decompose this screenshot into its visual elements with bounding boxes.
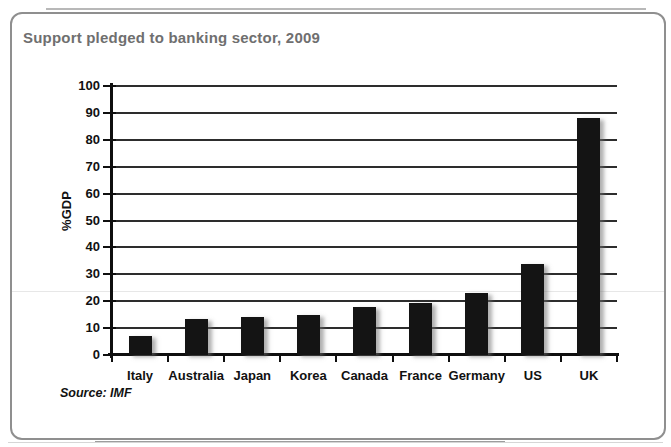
- y-tick-10: [103, 327, 116, 329]
- x-cat-label-germany: Germany: [449, 367, 505, 383]
- x-tick-2: [223, 356, 225, 362]
- bar-germany: [465, 293, 488, 355]
- y-tick-label-10: 10: [62, 319, 100, 337]
- bar-us: [521, 264, 544, 355]
- x-cat-label-australia: Australia: [168, 367, 224, 383]
- x-tick-3: [279, 356, 281, 362]
- x-cat-label-uk: UK: [561, 367, 617, 383]
- y-tick-60: [103, 193, 116, 195]
- scan-artifact-bottom-line-light: [8, 442, 663, 443]
- x-tick-9: [616, 356, 618, 362]
- gridline-60: [112, 193, 617, 195]
- x-cat-label-france: France: [393, 367, 449, 383]
- y-tick-20: [103, 300, 116, 302]
- x-cat-label-japan: Japan: [224, 367, 280, 383]
- bar-korea: [297, 315, 320, 355]
- y-tick-label-100: 100: [62, 77, 100, 95]
- y-tick-label-60: 60: [62, 185, 100, 203]
- scanned-chart-page: Support pledged to banking sector, 2009 …: [0, 0, 671, 447]
- x-tick-8: [560, 356, 562, 362]
- x-cat-label-canada: Canada: [336, 367, 392, 383]
- x-cat-label-korea: Korea: [280, 367, 336, 383]
- gridline-100: [112, 85, 617, 87]
- y-tick-label-30: 30: [62, 265, 100, 283]
- x-tick-6: [448, 356, 450, 362]
- y-tick-label-80: 80: [62, 131, 100, 149]
- bar-italy: [129, 336, 152, 355]
- y-tick-70: [103, 166, 116, 168]
- bar-australia: [185, 319, 208, 355]
- bar-france: [409, 303, 432, 355]
- y-tick-label-90: 90: [62, 104, 100, 122]
- x-tick-5: [392, 356, 394, 362]
- gridline-90: [112, 112, 617, 114]
- y-tick-label-40: 40: [62, 238, 100, 256]
- gridline-40: [112, 246, 617, 248]
- x-tick-7: [504, 356, 506, 362]
- y-tick-label-50: 50: [62, 212, 100, 230]
- gridline-80: [112, 139, 617, 141]
- bar-japan: [241, 317, 264, 355]
- y-tick-80: [103, 139, 116, 141]
- x-cat-label-italy: Italy: [112, 367, 168, 383]
- chart-card: Support pledged to banking sector, 2009 …: [10, 12, 666, 440]
- chart-title: Support pledged to banking sector, 2009: [23, 29, 320, 46]
- x-tick-1: [167, 356, 169, 362]
- bar-uk: [577, 118, 600, 355]
- y-tick-label-0: 0: [62, 346, 100, 364]
- y-tick-100: [103, 85, 116, 87]
- y-tick-0: [103, 354, 116, 356]
- source-note: Source: IMF: [60, 386, 132, 400]
- x-cat-label-us: US: [505, 367, 561, 383]
- bar-canada: [353, 307, 376, 355]
- x-tick-4: [335, 356, 337, 362]
- y-tick-30: [103, 273, 116, 275]
- gridline-70: [112, 166, 617, 168]
- scan-artifact-top-line: [46, 8, 646, 10]
- y-tick-label-70: 70: [62, 158, 100, 176]
- x-tick-0: [111, 356, 113, 362]
- gridline-50: [112, 220, 617, 222]
- y-tick-label-20: 20: [62, 292, 100, 310]
- y-tick-40: [103, 246, 116, 248]
- y-tick-90: [103, 112, 116, 114]
- bar-chart-plot-area: %GDP 0102030405060708090100ItalyAustrali…: [112, 86, 617, 355]
- y-tick-50: [103, 220, 116, 222]
